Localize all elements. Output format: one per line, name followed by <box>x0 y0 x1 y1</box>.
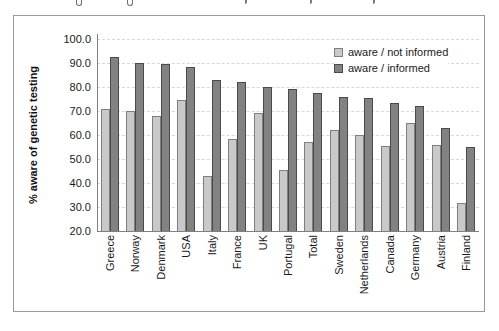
x-label-greece: Greece <box>104 235 117 313</box>
x-label-norway: Norway <box>129 235 142 313</box>
y-tick-label: 50.0 <box>49 153 91 165</box>
caption-fragment <box>127 0 133 6</box>
x-label-austria: Austria <box>435 235 448 313</box>
bar-austria-series1 <box>441 128 450 231</box>
legend-label: aware / informed <box>348 62 430 74</box>
bar-norway-series1 <box>135 63 144 231</box>
x-label-usa: USA <box>180 235 193 313</box>
x-label-canada: Canada <box>384 235 397 313</box>
caption-fragment <box>245 0 247 4</box>
bar-austria-series0 <box>432 145 441 231</box>
bar-finland-series0 <box>457 203 466 231</box>
legend-row: aware / informed <box>334 60 448 76</box>
bar-greece-series1 <box>110 57 119 231</box>
y-tick-label: 70.0 <box>49 105 91 117</box>
bar-norway-series0 <box>126 111 135 231</box>
bar-total-series0 <box>304 142 313 231</box>
x-label-portugal: Portugal <box>282 235 295 313</box>
y-tick-label: 80.0 <box>49 81 91 93</box>
x-label-france: France <box>231 235 244 313</box>
gridline <box>97 87 479 88</box>
bar-finland-series1 <box>466 147 475 231</box>
bar-portugal-series1 <box>288 89 297 231</box>
caption-fragment <box>76 0 82 6</box>
bar-france-series0 <box>228 139 237 231</box>
x-label-italy: Italy <box>206 235 219 313</box>
bar-denmark-series0 <box>152 116 161 231</box>
legend-label: aware / not informed <box>348 46 448 58</box>
bar-italy-series1 <box>212 80 221 231</box>
y-tick-label: 60.0 <box>49 129 91 141</box>
x-label-uk: UK <box>257 235 270 313</box>
bar-netherlands-series1 <box>364 98 373 231</box>
bar-germany-series1 <box>415 106 424 231</box>
bar-denmark-series1 <box>161 64 170 231</box>
y-tick-label: 40.0 <box>49 177 91 189</box>
bar-france-series1 <box>237 82 246 231</box>
bar-uk-series1 <box>263 87 272 231</box>
bar-canada-series1 <box>390 103 399 231</box>
chart-frame: % aware of genetic testing 100.090.080.0… <box>13 15 485 312</box>
bar-greece-series0 <box>101 109 110 231</box>
bar-sweden-series1 <box>339 97 348 231</box>
bar-germany-series0 <box>406 123 415 231</box>
y-axis-title: % aware of genetic testing <box>26 35 41 235</box>
legend: aware / not informedaware / informed <box>334 44 448 76</box>
x-axis-line <box>97 231 479 232</box>
chart-image: % aware of genetic testing 100.090.080.0… <box>0 0 499 331</box>
y-axis-line <box>97 34 98 231</box>
bar-uk-series0 <box>254 113 263 231</box>
bar-usa-series1 <box>186 67 195 231</box>
bar-italy-series0 <box>203 176 212 231</box>
x-label-denmark: Denmark <box>155 235 168 313</box>
x-label-netherlands: Netherlands <box>358 235 371 313</box>
x-label-finland: Finland <box>460 235 473 313</box>
y-tick-label: 90.0 <box>49 57 91 69</box>
bar-sweden-series0 <box>330 130 339 231</box>
gridline <box>97 39 479 40</box>
bar-usa-series0 <box>177 100 186 231</box>
caption-fragment <box>310 0 312 4</box>
bar-portugal-series0 <box>279 170 288 231</box>
bar-total-series1 <box>313 93 322 231</box>
legend-row: aware / not informed <box>334 44 448 60</box>
bar-netherlands-series0 <box>355 135 364 231</box>
x-label-total: Total <box>307 235 320 313</box>
legend-swatch-icon <box>334 64 343 73</box>
y-tick-label: 100.0 <box>49 33 91 45</box>
y-tick-label: 30.0 <box>49 201 91 213</box>
x-label-sweden: Sweden <box>333 235 346 313</box>
caption-fragment <box>373 0 375 4</box>
legend-swatch-icon <box>334 48 343 57</box>
y-tick-label: 20.0 <box>49 225 91 237</box>
bar-canada-series0 <box>381 146 390 231</box>
x-label-germany: Germany <box>409 235 422 313</box>
